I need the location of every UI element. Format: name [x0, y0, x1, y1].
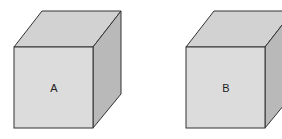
cube-a-label: A: [50, 82, 58, 94]
cubes-diagram: A B: [0, 0, 282, 139]
cube-b-top-face: [186, 11, 282, 47]
cube-a: A: [14, 11, 121, 128]
cube-b: B: [186, 11, 282, 128]
cube-b-label: B: [222, 82, 229, 94]
